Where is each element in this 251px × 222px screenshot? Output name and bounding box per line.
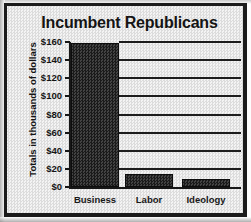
gridline <box>119 41 241 43</box>
scan-edge-bottom <box>0 217 251 222</box>
y-axis-tick-label: $40 <box>28 145 62 156</box>
chart-frame: Incumbent Republicans Totals in thousand… <box>4 3 247 217</box>
chart-screenshot: Incumbent Republicans Totals in thousand… <box>0 0 251 222</box>
y-axis-tick <box>65 114 70 116</box>
bar-ideology <box>182 179 230 187</box>
x-axis-line <box>69 187 241 189</box>
y-axis-tick <box>65 168 70 170</box>
y-axis-tick-label: $20 <box>28 163 62 174</box>
y-axis-tick-label: $0 <box>28 181 62 192</box>
y-axis-tick-label: $100 <box>28 90 62 101</box>
y-axis-tick-label: $160 <box>28 36 62 47</box>
y-axis-tick <box>65 41 70 43</box>
y-axis-tick <box>65 132 70 134</box>
y-axis-tick-label: $80 <box>28 109 62 120</box>
y-axis-tick <box>65 77 70 79</box>
y-axis-tick <box>65 186 70 188</box>
y-axis-tick <box>65 95 70 97</box>
chart-title: Incumbent Republicans <box>17 14 242 32</box>
y-axis-tick <box>65 150 70 152</box>
x-axis-label-ideology: Ideology <box>172 194 240 205</box>
y-axis-tick-label: $140 <box>28 54 62 65</box>
y-axis-tick <box>65 59 70 61</box>
bar-business <box>71 43 119 187</box>
plot-area: $0$20$40$60$80$100$120$140$160 BusinessL… <box>69 42 241 187</box>
y-axis-tick-label: $120 <box>28 72 62 83</box>
bar-labor <box>125 174 173 187</box>
y-axis-tick-label: $60 <box>28 127 62 138</box>
